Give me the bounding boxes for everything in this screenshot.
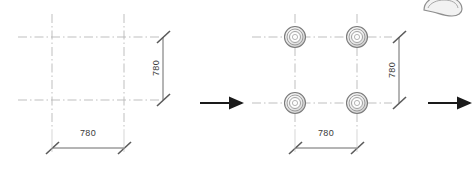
vertical-dimension-label-right: 780 (387, 62, 397, 78)
horizontal-dimension-label-right: 780 (318, 128, 334, 138)
column-symbol (285, 93, 306, 114)
drawing-canvas: 780 780 (0, 0, 476, 170)
column-symbol (347, 93, 368, 114)
canvas-background (0, 0, 476, 170)
column-symbol (285, 27, 306, 48)
vertical-dimension-label-left: 780 (151, 60, 161, 76)
technical-drawing: 780 780 (0, 0, 476, 170)
horizontal-dimension-label-left: 780 (80, 128, 96, 138)
column-symbol (347, 27, 368, 48)
